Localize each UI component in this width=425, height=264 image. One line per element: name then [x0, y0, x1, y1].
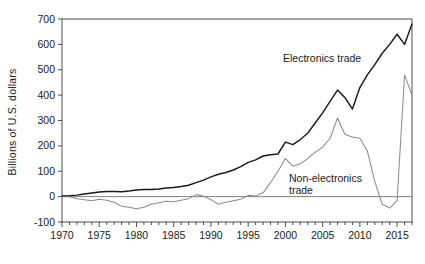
y-tick-label: 100: [37, 165, 55, 177]
y-tick-label: -100: [34, 216, 55, 228]
y-tick-label: 600: [37, 38, 55, 50]
y-axis-title: Billions of U.S. dollars: [6, 69, 18, 176]
y-tick-label: 400: [37, 89, 55, 101]
x-tick-label: 1970: [50, 229, 74, 241]
y-tick-label: 200: [37, 139, 55, 151]
x-tick-label: 2005: [311, 229, 335, 241]
y-tick-label: 700: [37, 13, 55, 25]
x-axis-ticks: 1970197519801985199019952000200520102015: [50, 229, 409, 241]
y-tick-label: 0: [49, 190, 55, 202]
x-tick-label: 1995: [236, 229, 260, 241]
series-line-electronics-trade: [62, 24, 412, 196]
y-tick-label: 300: [37, 114, 55, 126]
x-tick-label: 2010: [348, 229, 372, 241]
x-tick-label: 2000: [274, 229, 298, 241]
x-tick-label: 2015: [385, 229, 409, 241]
annotation-non-electronics-trade-line1: Non-electronics: [289, 172, 362, 184]
x-tick-label: 1985: [162, 229, 186, 241]
line-chart: Billions of U.S. dollars 700600500400300…: [0, 0, 425, 264]
x-tick-label: 1990: [199, 229, 223, 241]
y-axis-ticks: 7006005004003002001000-100: [34, 13, 62, 228]
y-tick-label: 500: [37, 63, 55, 75]
series-line-non-electronics-trade: [62, 75, 412, 209]
x-tick-label: 1980: [125, 229, 149, 241]
x-tick-label: 1975: [88, 229, 112, 241]
x-axis-minor-ticks: [62, 222, 412, 227]
chart-container: Billions of U.S. dollars 700600500400300…: [0, 0, 425, 264]
annotation-electronics-trade: Electronics trade: [283, 52, 361, 64]
annotation-non-electronics-trade-line2: trade: [289, 184, 313, 196]
